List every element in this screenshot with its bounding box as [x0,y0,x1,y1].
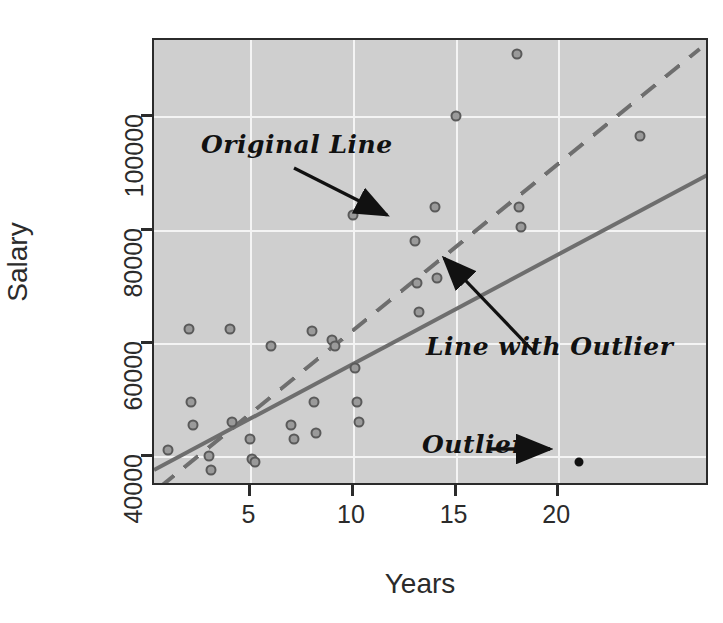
data-point [206,465,217,476]
data-point [204,450,215,461]
data-point [413,306,424,317]
data-point [187,419,198,430]
scatter-plot-figure: Original Line Line with Outlier Outlier … [0,0,723,623]
plot-area: Original Line Line with Outlier Outlier [152,38,708,485]
gridline-vertical [456,40,458,483]
data-point [430,201,441,212]
annotation-outlier: Outlier [422,430,525,459]
data-point [514,201,525,212]
data-point [411,278,422,289]
data-point [348,210,359,221]
y-tick-label: 100000 [120,114,149,197]
data-point [516,221,527,232]
data-point [245,433,256,444]
y-tick-label: 80000 [120,228,149,298]
data-point [450,111,461,122]
gridline-horizontal [154,230,706,232]
data-point [512,49,523,60]
x-axis-title: Years [385,568,456,600]
outlier-data-point [574,457,583,466]
data-point [352,397,363,408]
data-point [265,340,276,351]
data-point [350,363,361,374]
x-tick-label: 10 [337,500,365,529]
x-tick-label: 5 [241,500,255,529]
x-tick-mark [248,485,251,496]
data-point [224,323,235,334]
x-tick-mark [556,485,559,496]
data-point [288,433,299,444]
data-point [311,428,322,439]
y-tick-label: 60000 [120,341,149,411]
data-point [183,323,194,334]
y-axis-title: Salary [2,222,34,301]
data-point [249,456,260,467]
y-tick-label: 40000 [120,454,149,524]
data-point [286,419,297,430]
gridline-vertical [558,40,560,483]
annotation-original-line: Original Line [201,130,393,159]
data-point [409,235,420,246]
data-point [185,397,196,408]
gridline-horizontal [154,116,706,118]
data-point [163,445,174,456]
data-point [432,272,443,283]
data-point [306,326,317,337]
x-tick-mark [454,485,457,496]
annotation-line-with-outlier: Line with Outlier [426,332,673,361]
gridline-vertical [353,40,355,483]
x-tick-label: 15 [440,500,468,529]
x-tick-label: 20 [542,500,570,529]
data-point [226,416,237,427]
regression-line-dashed [159,48,701,485]
x-tick-mark [351,485,354,496]
data-point [635,131,646,142]
regression-line-solid [153,172,708,472]
data-point [354,416,365,427]
data-point [309,397,320,408]
data-point [329,340,340,351]
